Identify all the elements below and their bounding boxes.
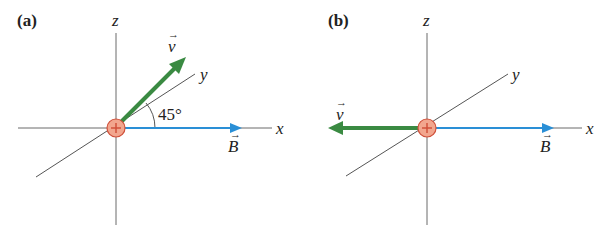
y-axis-label: y (200, 66, 208, 83)
z-axis-label: z (112, 12, 119, 29)
angle-label: 45° (158, 106, 182, 123)
vector-arrow-icon: → (542, 129, 553, 140)
diagram-canvas (0, 0, 597, 239)
panel-a-label: (a) (17, 12, 37, 29)
y-axis-label: y (512, 66, 520, 83)
vector-arrow-icon: → (230, 129, 241, 140)
x-axis-label: x (276, 120, 284, 137)
field-label: →B (540, 138, 550, 155)
x-axis-label: x (586, 120, 594, 137)
velocity-label: →v (168, 38, 176, 55)
angle-arc (146, 103, 155, 128)
z-axis-label: z (423, 12, 430, 29)
field-label: →B (228, 138, 238, 155)
vector-arrow-icon: → (336, 97, 347, 108)
vector-arrow-icon: → (168, 29, 179, 40)
velocity-label: →v (336, 106, 344, 123)
panel-b-label: (b) (328, 12, 349, 29)
